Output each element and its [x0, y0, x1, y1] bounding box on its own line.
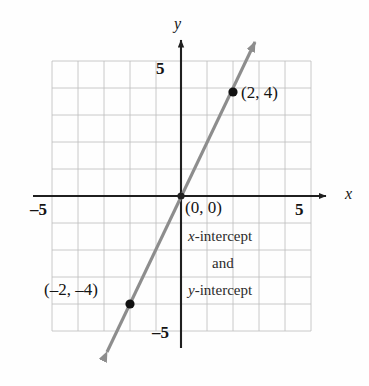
point-label-neg2-neg4: (–2, –4)	[44, 281, 98, 298]
y-axis-label: y	[174, 16, 181, 32]
point-label-2-4: (2, 4)	[241, 84, 278, 101]
x-axis-tick-minus-5: –5	[30, 201, 47, 218]
y-axis-tick-minus-5: –5	[152, 324, 169, 341]
x-intercept-variable: x	[188, 228, 195, 244]
y-intercept-text: -intercept	[195, 282, 252, 298]
x-intercept-text: -intercept	[195, 228, 252, 244]
and-connector-note: and	[212, 256, 234, 271]
y-intercept-variable: y	[188, 282, 195, 298]
x-axis-tick-5: 5	[295, 201, 304, 218]
y-axis-tick-5: 5	[156, 60, 165, 77]
origin-label: (0, 0)	[185, 199, 222, 216]
data-point-2-4	[228, 87, 237, 96]
y-intercept-note: y-intercept	[188, 283, 252, 298]
data-point-origin	[177, 192, 184, 199]
coordinate-plane-svg	[0, 0, 369, 386]
data-point-neg2-neg4	[125, 299, 134, 308]
x-axis-label: x	[345, 186, 352, 202]
graph-figure: 5 –5 –5 5 y x (2, 4) (–2, –4) (0, 0) x-i…	[0, 0, 369, 386]
x-intercept-note: x-intercept	[188, 229, 252, 244]
